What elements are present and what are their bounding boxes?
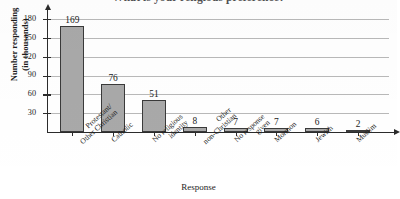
x-axis-arrow-icon (394, 129, 400, 135)
bar-value-label: 51 (133, 89, 175, 99)
y-axis-tick (43, 76, 51, 77)
y-axis-tick-label: 60 (0, 90, 36, 98)
bar (60, 26, 84, 132)
gridline (47, 38, 389, 39)
x-axis-title: Response (0, 182, 397, 192)
chart-title: What is your religious preference? (0, 0, 397, 3)
y-axis-tick-label: 30 (0, 109, 36, 117)
y-axis-tick-label: 180 (0, 15, 36, 23)
gridline (47, 19, 389, 20)
bar-value-label: 76 (92, 73, 134, 83)
y-axis-tick (43, 94, 51, 95)
y-axis-arrow-icon (45, 4, 51, 10)
y-axis-tick (43, 38, 51, 39)
y-axis-tick (43, 57, 51, 58)
y-axis-tick-label: 120 (0, 53, 36, 61)
bar-value-label: 169 (51, 15, 93, 25)
y-axis-tick-label: 150 (0, 34, 36, 42)
y-axis-tick (43, 19, 51, 20)
gridline (47, 57, 389, 58)
gridline (47, 94, 389, 95)
y-axis-tick-label: 90 (0, 71, 36, 79)
y-axis-tick (43, 113, 51, 114)
